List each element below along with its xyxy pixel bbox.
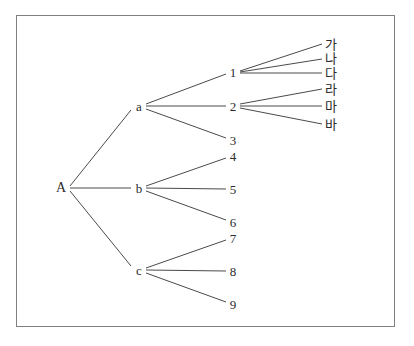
tree-edge [240, 89, 322, 104]
edges-group [70, 44, 322, 302]
tree-edge [240, 59, 322, 72]
tree-node-b: b [136, 182, 143, 195]
tree-node-n5: 5 [230, 183, 237, 196]
tree-node-n7: 7 [230, 232, 237, 245]
tree-node-n1: 1 [230, 66, 237, 79]
tree-edge [146, 158, 226, 186]
tree-edge [146, 273, 226, 302]
tree-edge [146, 109, 226, 138]
tree-edges-layer [0, 0, 414, 346]
tree-node-n9: 9 [230, 298, 237, 311]
tree-node-n2: 2 [230, 100, 237, 113]
tree-edge [146, 240, 226, 268]
tree-edge [70, 110, 131, 186]
tree-node-n8: 8 [230, 265, 237, 278]
tree-node-A: A [56, 181, 66, 195]
tree-edge [146, 270, 226, 271]
tree-edge [146, 188, 226, 189]
tree-node-k6: 바 [325, 118, 337, 131]
tree-node-k3: 다 [325, 67, 337, 80]
tree-node-a: a [136, 100, 142, 113]
tree-node-n3: 3 [230, 134, 237, 147]
tree-node-k2: 나 [325, 52, 337, 65]
diagram-page: Aabc123456789가나다라마바 [0, 0, 414, 346]
tree-node-n6: 6 [230, 216, 237, 229]
tree-edge [146, 191, 226, 220]
tree-edge [146, 74, 226, 104]
tree-node-k4: 라 [325, 83, 337, 96]
tree-node-k5: 마 [325, 100, 337, 113]
tree-edge [240, 44, 322, 71]
tree-node-k1: 가 [325, 38, 337, 51]
tree-node-n4: 4 [230, 150, 237, 163]
tree-edge [240, 108, 322, 124]
tree-edge [70, 191, 131, 266]
tree-node-c: c [136, 264, 142, 277]
